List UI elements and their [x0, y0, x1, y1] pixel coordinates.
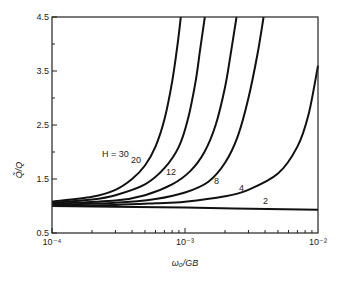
y-axis-label: Q̃/Q: [13, 162, 24, 179]
curve-label: 2: [263, 196, 268, 206]
chart: 10⁻⁴10⁻³10⁻² 0.51.52.53.54.5 H = 3020128…: [0, 0, 340, 281]
curve-label: H = 30: [102, 149, 129, 159]
curve-h30: [52, 17, 181, 202]
x-tick-label: 10⁻²: [309, 237, 327, 247]
x-axis-ticks: 10⁻⁴10⁻³10⁻²: [43, 228, 327, 247]
curve-label: 8: [214, 176, 219, 186]
y-tick-label: 3.5: [36, 66, 49, 76]
curve-label: 12: [166, 167, 176, 177]
curve-h12: [52, 17, 237, 204]
curve-label: 4: [239, 183, 244, 193]
plot-frame: [52, 17, 318, 233]
x-tick-label: 10⁻³: [176, 237, 194, 247]
x-axis-label: ω₀/GB: [172, 258, 198, 268]
y-tick-label: 1.5: [36, 174, 49, 184]
curve-h2: [52, 206, 318, 210]
curve-h4: [52, 66, 318, 206]
curves: [52, 17, 318, 210]
curve-label: 20: [131, 155, 141, 165]
curve-h20: [52, 17, 205, 203]
y-tick-label: 2.5: [36, 120, 49, 130]
x-tick-label: 10⁻⁴: [43, 237, 62, 247]
y-tick-label: 0.5: [36, 228, 49, 238]
curve-labels: H = 302012842: [102, 149, 268, 206]
y-tick-label: 4.5: [36, 12, 49, 22]
